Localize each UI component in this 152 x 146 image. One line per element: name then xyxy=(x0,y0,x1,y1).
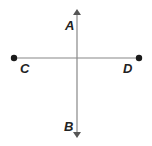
geometry-diagram: A B C D xyxy=(0,0,152,146)
label-c: C xyxy=(20,61,30,76)
label-b: B xyxy=(64,119,73,134)
point-c xyxy=(11,55,17,61)
point-d xyxy=(136,55,142,61)
label-a: A xyxy=(64,18,74,33)
label-d: D xyxy=(123,61,133,76)
